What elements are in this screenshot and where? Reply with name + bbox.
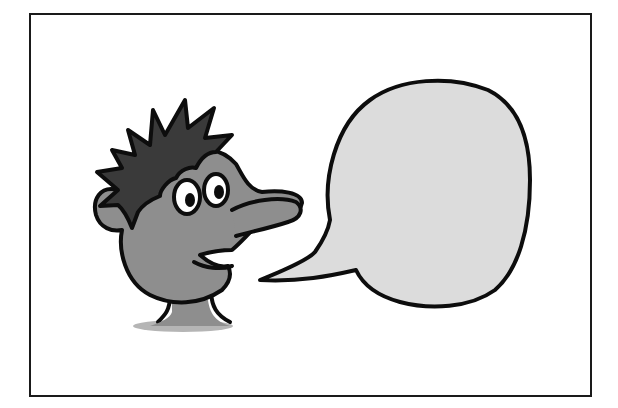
character-nose	[232, 199, 301, 236]
speech-bubble	[260, 81, 530, 307]
cartoon-illustration	[0, 0, 618, 408]
character-pupil-right	[214, 185, 224, 199]
character-pupil-left	[185, 193, 195, 207]
